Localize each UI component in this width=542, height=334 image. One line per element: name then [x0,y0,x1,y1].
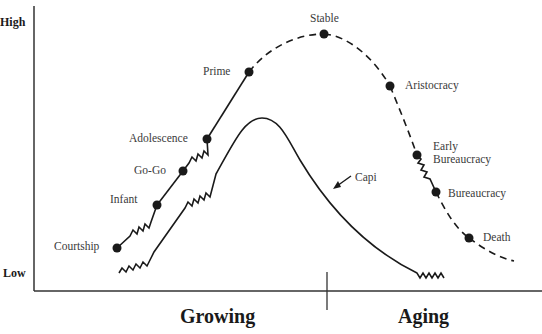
stage-label-aristocracy: Aristocracy [405,79,459,92]
stage-label-adolescence: Adolescence [129,132,188,144]
stage-dot-stable [320,30,329,39]
stage-dot-courtship [113,244,122,253]
stage-label-courtship: Courtship [54,240,100,253]
stage-dot-infant [153,201,162,210]
stage-dot-aristocracy [386,82,395,91]
stage-label-go-go: Go-Go [134,164,166,176]
phase-growing-label: Growing [180,305,255,328]
stage-dot-prime [245,68,254,77]
capi-arrow-head-icon [333,181,341,189]
stage-dot-death [465,234,474,243]
lifecycle-diagram: High Low Growing Aging Cou [0,0,542,334]
stage-dot-bureaucracy [432,188,441,197]
stage-label-bureaucracy: Bureaucracy [448,187,506,200]
stage-label-stable: Stable [310,12,339,24]
stage-dot-early-bureaucracy [413,151,422,160]
stage-dot-adolescence [203,135,212,144]
capi-label: Capi [355,171,377,184]
y-axis-low-label: Low [3,266,26,280]
stage-label-death: Death [483,231,511,243]
stage-label-early-bureaucracy-line1: Early [433,140,458,153]
stage-label-early-bureaucracy-line2: Bureaucracy [433,153,491,166]
stage-label-infant: Infant [110,193,138,205]
stage-label-prime: Prime [203,65,230,77]
phase-aging-label: Aging [398,305,449,328]
y-axis-high-label: High [0,15,26,29]
stage-dot-go-go [179,167,188,176]
